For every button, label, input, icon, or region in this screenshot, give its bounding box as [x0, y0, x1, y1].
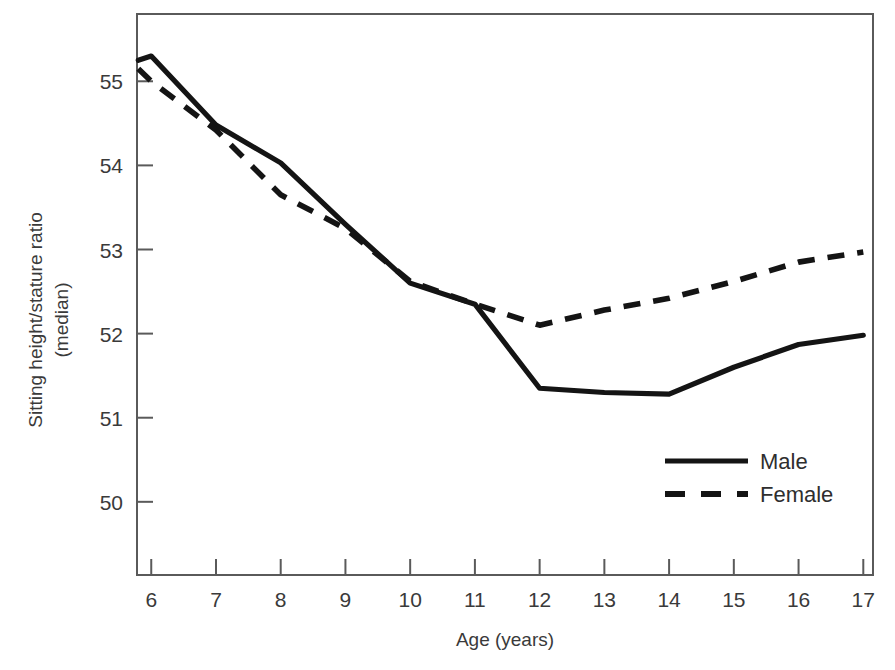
x-tick-label-9: 9	[340, 588, 352, 611]
x-axis-ticks	[151, 559, 863, 575]
x-tick-label-13: 13	[593, 588, 616, 611]
y-tick-label-55: 55	[100, 70, 123, 93]
x-tick-label-12: 12	[528, 588, 551, 611]
x-tick-label-14: 14	[657, 588, 681, 611]
y-tick-label-54: 54	[100, 154, 124, 177]
x-tick-label-15: 15	[722, 588, 745, 611]
chart-legend: Male Female	[665, 449, 833, 507]
x-tick-label-17: 17	[852, 588, 875, 611]
y-tick-label-53: 53	[100, 239, 123, 262]
y-tick-label-52: 52	[100, 323, 123, 346]
x-tick-label-10: 10	[398, 588, 421, 611]
x-axis-title: Age (years)	[456, 629, 554, 650]
y-axis-tick-labels: 505152535455	[100, 70, 124, 514]
legend-label-female: Female	[760, 482, 833, 507]
line-chart: 505152535455 67891011121314151617 Male F…	[0, 0, 895, 670]
y-tick-label-50: 50	[100, 491, 123, 514]
y-axis-title-line1: Sitting height/stature ratio	[25, 212, 46, 427]
y-axis-ticks	[137, 81, 153, 502]
series-line-female	[138, 69, 863, 326]
legend-label-male: Male	[760, 449, 808, 474]
chart-figure: 505152535455 67891011121314151617 Male F…	[0, 0, 895, 670]
series-line-male	[138, 56, 863, 394]
x-axis-tick-labels: 67891011121314151617	[145, 588, 875, 611]
x-tick-label-16: 16	[787, 588, 810, 611]
x-tick-label-8: 8	[275, 588, 287, 611]
y-axis-title-line2: (median)	[51, 283, 72, 358]
x-tick-label-7: 7	[210, 588, 222, 611]
x-tick-label-11: 11	[464, 588, 486, 611]
y-tick-label-51: 51	[100, 407, 123, 430]
x-tick-label-6: 6	[145, 588, 157, 611]
